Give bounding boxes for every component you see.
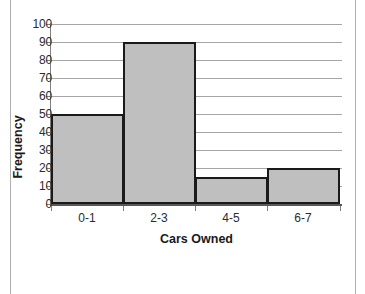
y-tick-label-100: 100	[12, 18, 52, 30]
x-tick-label-4-5: 4-5	[195, 211, 267, 225]
x-axis-line	[50, 204, 342, 206]
bar-2-3[interactable]	[123, 42, 196, 204]
y-tick-label-70: 70	[12, 72, 52, 84]
gridline-100	[51, 24, 342, 25]
y-tick-label-60: 60	[12, 90, 52, 102]
x-tick-label-2-3: 2-3	[123, 211, 195, 225]
gridline-90	[51, 42, 342, 43]
y-tick-label-90: 90	[12, 36, 52, 48]
bar-0-1[interactable]	[51, 114, 124, 204]
plot-area	[51, 24, 342, 204]
y-tick-label-0: 0	[12, 198, 52, 210]
bar-6-7[interactable]	[267, 168, 340, 204]
histogram-chart: 100 90 80 70 60 50 40 30 20 10 0 0-1 2-3…	[0, 0, 365, 294]
gridline-70	[51, 78, 342, 79]
y-tick-label-80: 80	[12, 54, 52, 66]
bar-4-5[interactable]	[195, 177, 268, 204]
x-tick-mark-4	[340, 206, 341, 211]
x-tick-label-6-7: 6-7	[267, 211, 339, 225]
x-tick-label-0-1: 0-1	[51, 211, 123, 225]
gridline-80	[51, 60, 342, 61]
gridline-60	[51, 96, 342, 97]
x-axis-title: Cars Owned	[51, 232, 342, 246]
y-axis-title: Frequency	[11, 112, 25, 182]
